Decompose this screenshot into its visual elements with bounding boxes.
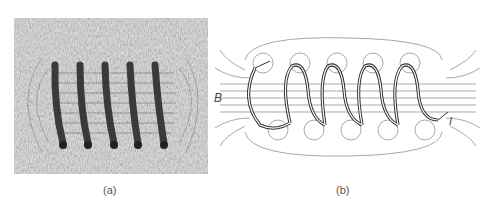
caption-a: (a) xyxy=(103,184,116,196)
iron-filings-photo xyxy=(14,18,208,174)
current-label-I: I xyxy=(449,115,452,127)
field-lines-diagram xyxy=(210,0,486,175)
current-arrow-top xyxy=(255,61,270,68)
solenoid-coil xyxy=(249,65,438,128)
caption-b: (b) xyxy=(336,184,349,196)
magnetic-field-lines xyxy=(215,38,480,156)
solenoid-field-diagram xyxy=(210,0,486,175)
field-label-B: B xyxy=(214,91,222,105)
solenoid-photo-image xyxy=(14,18,208,174)
current-arrow-bottom xyxy=(438,112,448,120)
